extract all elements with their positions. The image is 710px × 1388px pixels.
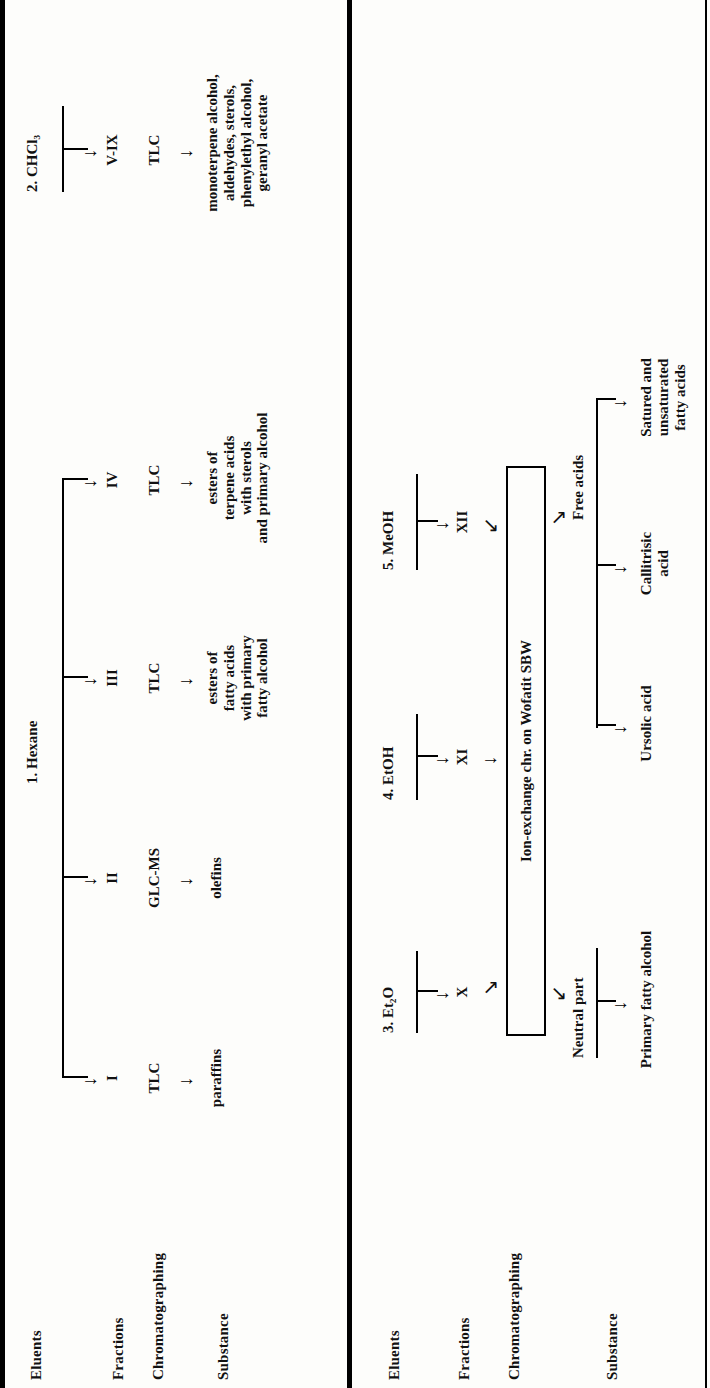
panel2-bottom-rule bbox=[705, 0, 707, 1388]
arrow-down-to-fraction-V-IX: ↓ bbox=[80, 149, 99, 159]
eluent-1-hexane: 1. Hexane bbox=[24, 721, 41, 784]
row-label-substance: Substance bbox=[215, 1313, 232, 1380]
hexane-distribution-bar bbox=[62, 478, 64, 1078]
arrow-down-to-substance-V-IX: ↓ bbox=[176, 149, 195, 159]
arrow-down-XI-to-box: ↓ bbox=[480, 756, 499, 766]
arrow-down-to-fraction-III: ↓ bbox=[80, 677, 99, 687]
fraction-I: I bbox=[104, 1043, 121, 1113]
row-label-fractions: Fractions bbox=[110, 1317, 127, 1380]
row2-label-chromatographing: Chromatographing bbox=[506, 1253, 523, 1380]
arrow-box-to-free-acids: ↘ bbox=[548, 509, 568, 526]
eluent-4-etoh: 4. EtOH bbox=[380, 747, 397, 800]
free-acids-bar bbox=[596, 398, 598, 728]
etoh-distribution-bar bbox=[416, 714, 418, 800]
chromatographing-V-IX: TLC bbox=[146, 110, 163, 190]
arrow-down-primary-fatty-alcohol: ↓ bbox=[610, 1001, 629, 1011]
panel2-row-labels: Eluents Fractions Chromatographing Subst… bbox=[356, 1238, 710, 1388]
fraction-X: X bbox=[454, 962, 471, 1022]
chromatographing-I: TLC bbox=[146, 1038, 163, 1118]
substance-ursolic-acid: Ursolic acid bbox=[638, 661, 655, 786]
arrow-down-callitrisic-acid: ↓ bbox=[610, 565, 629, 575]
ion-exchange-box: Ion-exchange chr. on Wofatit SBW bbox=[506, 466, 546, 1036]
arrow-diagonal-X-to-box: ↘ bbox=[480, 979, 500, 996]
fraction-III: III bbox=[104, 643, 121, 713]
arrow-down-to-substance-III: ↓ bbox=[176, 677, 195, 687]
row2-label-eluents: Eluents bbox=[386, 1330, 403, 1380]
substance-esters-terpene-acids: esters of terpene acids with sterols and… bbox=[204, 398, 271, 558]
substance-primary-fatty-alcohol: Primary fatty alcohol bbox=[638, 917, 655, 1082]
substance-callitrisic-acid: Callitrisic acid bbox=[638, 501, 672, 626]
arrow-down-to-fraction-IV: ↓ bbox=[80, 479, 99, 489]
et2o-distribution-bar bbox=[416, 951, 418, 1033]
arrow-down-to-fraction-X: ↓ bbox=[432, 991, 451, 1001]
panel1-top-rule bbox=[0, 0, 5, 1388]
eluent-2-chcl3: 2. CHCl₃ bbox=[24, 135, 41, 192]
arrow-diagonal-XII-to-box: ↙ bbox=[480, 517, 500, 534]
arrow-box-to-neutral-part: ↙ bbox=[548, 985, 568, 1002]
arrow-down-to-substance-IV: ↓ bbox=[176, 479, 195, 489]
fraction-XII: XII bbox=[454, 492, 471, 552]
fraction-IV: IV bbox=[104, 445, 121, 515]
chromatographing-IV: TLC bbox=[146, 440, 163, 520]
eluent-3-et2o: 3. Et₂O bbox=[380, 987, 397, 1033]
row-label-eluents: Eluents bbox=[28, 1330, 45, 1380]
fraction-II: II bbox=[104, 843, 121, 913]
substance-paraffins: paraffins bbox=[208, 1023, 225, 1133]
row-label-chromatographing: Chromatographing bbox=[150, 1253, 167, 1380]
arrow-down-fatty-acids: ↓ bbox=[610, 399, 629, 409]
fraction-XI: XI bbox=[454, 727, 471, 787]
output-neutral-part: Neutral part bbox=[570, 978, 587, 1058]
arrow-down-to-substance-I: ↓ bbox=[176, 1077, 195, 1087]
panel-et2o-etoh-meoh: Eluents Fractions Chromatographing Subst… bbox=[356, 0, 710, 1388]
substance-esters-fatty-acids: esters of fatty acids with primary fatty… bbox=[204, 613, 271, 743]
substance-monoterpene-group: monoterpene alcohol, aldehydes, sterols,… bbox=[204, 28, 271, 258]
arrow-down-to-fraction-XI: ↓ bbox=[432, 756, 451, 766]
arrow-down-to-fraction-II: ↓ bbox=[80, 877, 99, 887]
substance-olefins: olefins bbox=[208, 828, 225, 928]
substance-fatty-acids: Satured and unsaturated fatty acids bbox=[638, 325, 688, 470]
chromatographing-II: GLC-MS bbox=[146, 823, 163, 933]
chromatographing-III: TLC bbox=[146, 638, 163, 718]
eluent-5-meoh: 5. MeOH bbox=[380, 511, 397, 570]
row2-label-substance: Substance bbox=[604, 1313, 621, 1380]
arrow-down-to-fraction-I: ↓ bbox=[80, 1077, 99, 1087]
ion-exchange-label: Ion-exchange chr. on Wofatit SBW bbox=[518, 640, 535, 862]
panel-hexane-chcl3: Eluents Fractions Chromatographing Subst… bbox=[0, 0, 356, 1388]
neutral-part-bar bbox=[596, 948, 598, 1058]
meoh-distribution-bar bbox=[416, 474, 418, 570]
arrow-down-to-substance-II: ↓ bbox=[176, 877, 195, 887]
panel1-bottom-rule bbox=[347, 0, 352, 1388]
panel1-row-labels: Eluents Fractions Chromatographing Subst… bbox=[0, 1238, 356, 1388]
arrow-down-to-fraction-XII: ↓ bbox=[432, 521, 451, 531]
row2-label-fractions: Fractions bbox=[456, 1317, 473, 1380]
rotated-scheme-stage: Eluents Fractions Chromatographing Subst… bbox=[0, 0, 710, 1388]
arrow-down-ursolic-acid: ↓ bbox=[610, 725, 629, 735]
fraction-V-IX: V-IX bbox=[104, 110, 121, 190]
output-free-acids: Free acids bbox=[570, 455, 587, 520]
